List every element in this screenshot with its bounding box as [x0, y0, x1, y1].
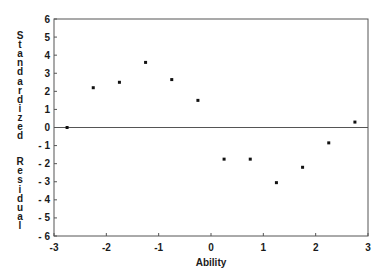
x-tick-label: -2 [102, 242, 111, 253]
y-tick-label: - 6 [38, 231, 50, 242]
data-point [92, 86, 95, 89]
y-axis-title-letter: d [17, 130, 23, 141]
data-point [249, 158, 252, 161]
y-tick-label: - 4 [38, 194, 50, 205]
x-tick-label: 0 [208, 242, 214, 253]
x-tick-label: 1 [261, 242, 267, 253]
x-tick-label: 3 [365, 242, 371, 253]
x-tick-label: 2 [313, 242, 319, 253]
y-tick-label: 4 [44, 50, 50, 61]
y-tick-label: 1 [44, 104, 50, 115]
y-axis-title: StandardizedResidual [16, 30, 24, 231]
y-tick-label: 0 [44, 122, 50, 133]
data-point [196, 99, 199, 102]
y-tick-label: 5 [44, 32, 50, 43]
x-axis-title: Ability [196, 257, 227, 268]
data-point [301, 166, 304, 169]
y-tick-label: 3 [44, 68, 50, 79]
data-point [353, 121, 356, 124]
data-points [66, 61, 357, 184]
x-tick-label: -1 [154, 242, 163, 253]
y-tick-label: - 2 [38, 158, 50, 169]
data-point [275, 181, 278, 184]
data-point [170, 78, 173, 81]
y-tick-label: - 3 [38, 176, 50, 187]
y-tick-label: 6 [44, 14, 50, 25]
data-point [327, 141, 330, 144]
x-tick-label: -3 [50, 242, 59, 253]
data-point [223, 158, 226, 161]
data-point [144, 61, 147, 64]
scatter-chart: StandardizedResidual 6543210- 1- 2- 3- 4… [0, 0, 387, 280]
data-point [118, 81, 121, 84]
data-point [66, 126, 69, 129]
y-axis-title-letter: l [19, 220, 22, 231]
y-tick-label: - 1 [38, 140, 50, 151]
y-tick-label: - 5 [38, 212, 50, 223]
y-tick-label: 2 [44, 86, 50, 97]
